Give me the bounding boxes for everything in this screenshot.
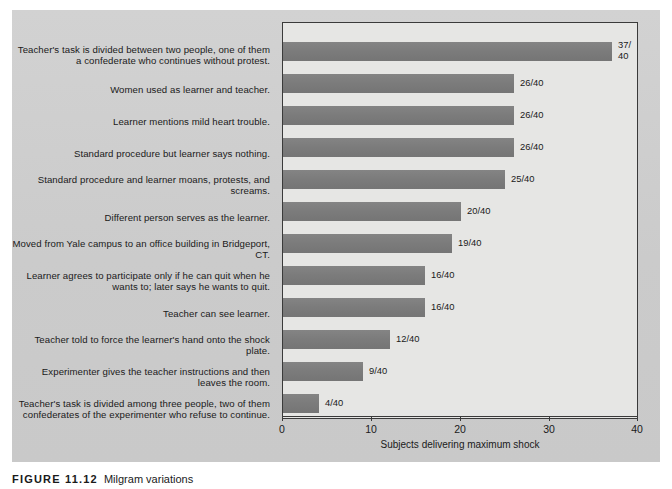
category-label: Standard procedure and learner moans, pr… — [12, 174, 270, 197]
figure-panel: Teacher's task is divided between two pe… — [12, 10, 660, 462]
figure-caption-text: Milgram variations — [104, 473, 193, 485]
x-tick-mark — [460, 416, 461, 421]
bar — [283, 74, 514, 93]
figure-root: Teacher's task is divided between two pe… — [0, 0, 672, 489]
bar-value-label: 26/40 — [520, 142, 543, 153]
bar-value-label: 37/ 40 — [618, 40, 631, 61]
bar — [283, 170, 505, 189]
category-label: Different person serves as the learner. — [12, 212, 270, 223]
x-tick-label: 30 — [543, 423, 555, 435]
bar — [283, 42, 612, 61]
figure-caption-number: FIGURE 11.12 — [12, 473, 98, 485]
bar-value-label: 16/40 — [431, 270, 454, 281]
bar-value-label: 16/40 — [431, 302, 454, 313]
bar-value-label: 26/40 — [520, 110, 543, 121]
figure-caption: FIGURE 11.12Milgram variations — [12, 473, 660, 485]
category-label: Standard procedure but learner says noth… — [12, 148, 270, 159]
bar-value-label: 26/40 — [520, 78, 543, 89]
category-label: Teacher told to force the learner's hand… — [12, 334, 270, 357]
bar — [283, 138, 514, 157]
bar — [283, 394, 319, 413]
category-label: Experimenter gives the teacher instructi… — [12, 366, 270, 389]
bar — [283, 266, 425, 285]
bar-value-label: 25/40 — [511, 174, 534, 185]
bar — [283, 234, 452, 253]
x-tick-label: 10 — [365, 423, 377, 435]
category-label: Teacher's task is divided between two pe… — [12, 44, 270, 67]
x-tick-mark — [371, 416, 372, 421]
category-label-column: Teacher's task is divided between two pe… — [12, 22, 276, 419]
bar-value-label: 19/40 — [458, 238, 481, 249]
bar-value-label: 20/40 — [467, 206, 490, 217]
bar — [283, 362, 363, 381]
bar — [283, 202, 461, 221]
category-label: Teacher's task is divided among three pe… — [12, 398, 270, 421]
x-tick-mark — [282, 416, 283, 421]
bar — [283, 330, 390, 349]
x-tick-mark — [637, 416, 638, 421]
category-label: Learner agrees to participate only if he… — [12, 270, 270, 293]
bars-layer: 37/ 40 26/40 26/40 26/40 25/40 20/40 19/… — [283, 23, 637, 418]
x-tick-label: 0 — [279, 423, 285, 435]
x-tick-mark — [549, 416, 550, 421]
category-label: Women used as learner and teacher. — [12, 84, 270, 95]
category-label: Moved from Yale campus to an office buil… — [12, 238, 270, 261]
x-tick-label: 20 — [454, 423, 466, 435]
bar-value-label: 12/40 — [396, 334, 419, 345]
x-tick-label: 40 — [631, 423, 643, 435]
bar-value-label: 4/40 — [325, 398, 343, 409]
bar — [283, 298, 425, 317]
bar — [283, 106, 514, 125]
x-axis-title: Subjects delivering maximum shock — [282, 439, 638, 450]
category-label: Learner mentions mild heart trouble. — [12, 116, 270, 127]
category-label: Teacher can see learner. — [12, 308, 270, 319]
bar-value-label: 9/40 — [369, 366, 387, 377]
